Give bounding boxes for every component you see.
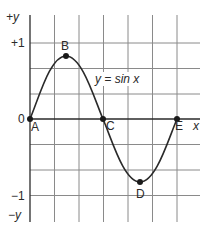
point-label-b: B [61, 39, 69, 53]
point-label-c: C [106, 119, 115, 133]
tick-minus-one: −1 [11, 189, 25, 203]
point-label-e: E [175, 119, 183, 133]
y-negative-label: −y [8, 208, 22, 222]
tick-zero: 0 [18, 112, 25, 126]
point-label-d: D [136, 187, 145, 201]
x-axis-label: x [192, 119, 200, 133]
equation-label: y = sin x [94, 72, 140, 86]
sine-diagram: +y −y x +1 0 −1 A B C D E y = sin x [0, 0, 209, 230]
y-positive-label: +y [6, 10, 20, 24]
point-label-a: A [31, 120, 39, 134]
point-d [137, 179, 143, 185]
tick-plus-one: +1 [11, 36, 25, 50]
point-b [63, 53, 69, 59]
